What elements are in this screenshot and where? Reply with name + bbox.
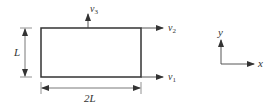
height-dimension	[20, 28, 32, 77]
coordinate-axes	[221, 40, 254, 64]
v3-label: v3	[90, 3, 98, 16]
width-label: 2L	[84, 92, 96, 104]
v1-label: v1	[168, 71, 176, 84]
height-label: L	[13, 46, 20, 58]
x-axis-label: x	[257, 57, 263, 69]
y-axis-label: y	[217, 26, 223, 38]
v2-label: v2	[168, 22, 176, 35]
diagram-canvas: L 2L v3 v2 v1 y x	[0, 0, 271, 108]
plate-rectangle	[41, 28, 141, 77]
